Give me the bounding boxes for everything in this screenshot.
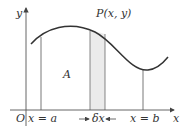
strip-shading	[90, 31, 105, 110]
strip-width-label: δx	[92, 112, 106, 125]
x-axis-label: x	[173, 112, 180, 125]
point-label: P(x, y)	[95, 7, 131, 20]
area-label: A	[62, 68, 71, 81]
left-bound-label: x = a	[28, 112, 57, 125]
area-diagram: y x O P(x, y) A x = a δx x = b	[0, 0, 180, 133]
right-bound-label: x = b	[130, 112, 159, 125]
origin-label: O	[16, 112, 25, 125]
y-axis-label: y	[15, 7, 23, 20]
